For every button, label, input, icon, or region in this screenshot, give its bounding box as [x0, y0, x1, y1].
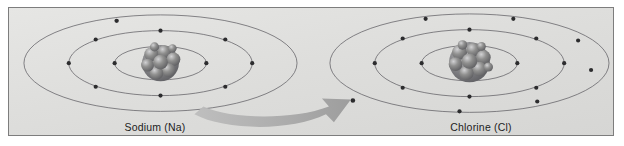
electron-dot [223, 37, 227, 41]
electron-dot-received [351, 98, 356, 103]
electron-dot [401, 86, 405, 90]
electron-dot [534, 86, 538, 90]
atom-chlorine [330, 14, 609, 114]
atom-sodium [24, 15, 297, 111]
electron-dot [373, 61, 377, 65]
electron-dot [158, 94, 162, 98]
ionic-bond-figure: Sodium (Na) Chlorine (Cl) [0, 0, 624, 146]
illustration-panel: Sodium (Na) Chlorine (Cl) [8, 7, 614, 136]
electron-dot [515, 61, 519, 65]
atom-label-sodium: Sodium (Na) [55, 121, 255, 133]
electron-dot [467, 95, 471, 99]
electron-dot [511, 17, 515, 21]
electron-dot [94, 85, 98, 89]
atom-label-chlorine: Chlorine (Cl) [381, 121, 581, 133]
electron-dot [204, 61, 208, 65]
electron-dot [467, 28, 471, 32]
electron-dot [420, 61, 424, 65]
sodium-shell-3-electrons [114, 19, 118, 23]
electron-dot [562, 61, 566, 65]
electron-dot [67, 61, 71, 65]
electron-dot [576, 38, 580, 42]
electron-dot [113, 61, 117, 65]
electron-dot [223, 85, 227, 89]
electron-dot [457, 109, 461, 113]
electron-dot [534, 36, 538, 40]
electron-dot [424, 17, 428, 21]
electron-dot [94, 37, 98, 41]
electron-dot [535, 99, 539, 103]
sodium-nucleus [141, 42, 180, 81]
electron-dot [401, 36, 405, 40]
electron-dot [589, 68, 593, 72]
atoms-scene [9, 8, 613, 135]
electron-dot-valence [114, 19, 118, 23]
electron-dot [158, 29, 162, 33]
electron-dot [250, 61, 254, 65]
